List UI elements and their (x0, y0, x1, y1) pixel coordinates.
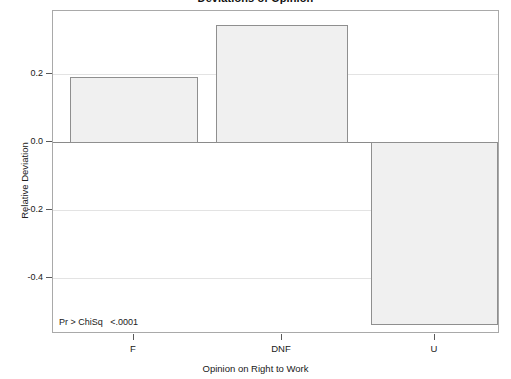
y-tick-mark-0.0 (46, 141, 52, 142)
bar-U[interactable] (371, 142, 498, 325)
x-tick-mark-DNF (281, 334, 282, 340)
x-tick-mark-F (133, 334, 134, 340)
x-tick-label-U: U (374, 344, 494, 354)
x-axis-title: Opinion on Right to Work (0, 363, 511, 374)
y-axis-title: Relative Deviation (19, 111, 30, 251)
chart-title: Deviations of Opinion (0, 0, 511, 4)
bar-DNF[interactable] (216, 25, 348, 143)
chi-square-p-value-annotation: Pr > ChiSq <.0001 (59, 317, 138, 327)
y-tick-mark-0.2 (46, 73, 52, 74)
y-tick-label-0.0: 0.0 (30, 137, 43, 146)
y-tick-mark--0.4 (46, 277, 52, 278)
y-tick-label--0.2: -0.2 (27, 205, 43, 214)
bar-F[interactable] (70, 77, 198, 143)
x-tick-label-F: F (73, 344, 193, 354)
plot-area: Pr > ChiSq <.0001 (52, 10, 499, 333)
y-tick-label-0.2: 0.2 (30, 69, 43, 78)
y-tick-mark--0.2 (46, 209, 52, 210)
y-tick-label--0.4: -0.4 (27, 273, 43, 282)
x-tick-label-DNF: DNF (221, 344, 341, 354)
x-tick-mark-U (434, 334, 435, 340)
